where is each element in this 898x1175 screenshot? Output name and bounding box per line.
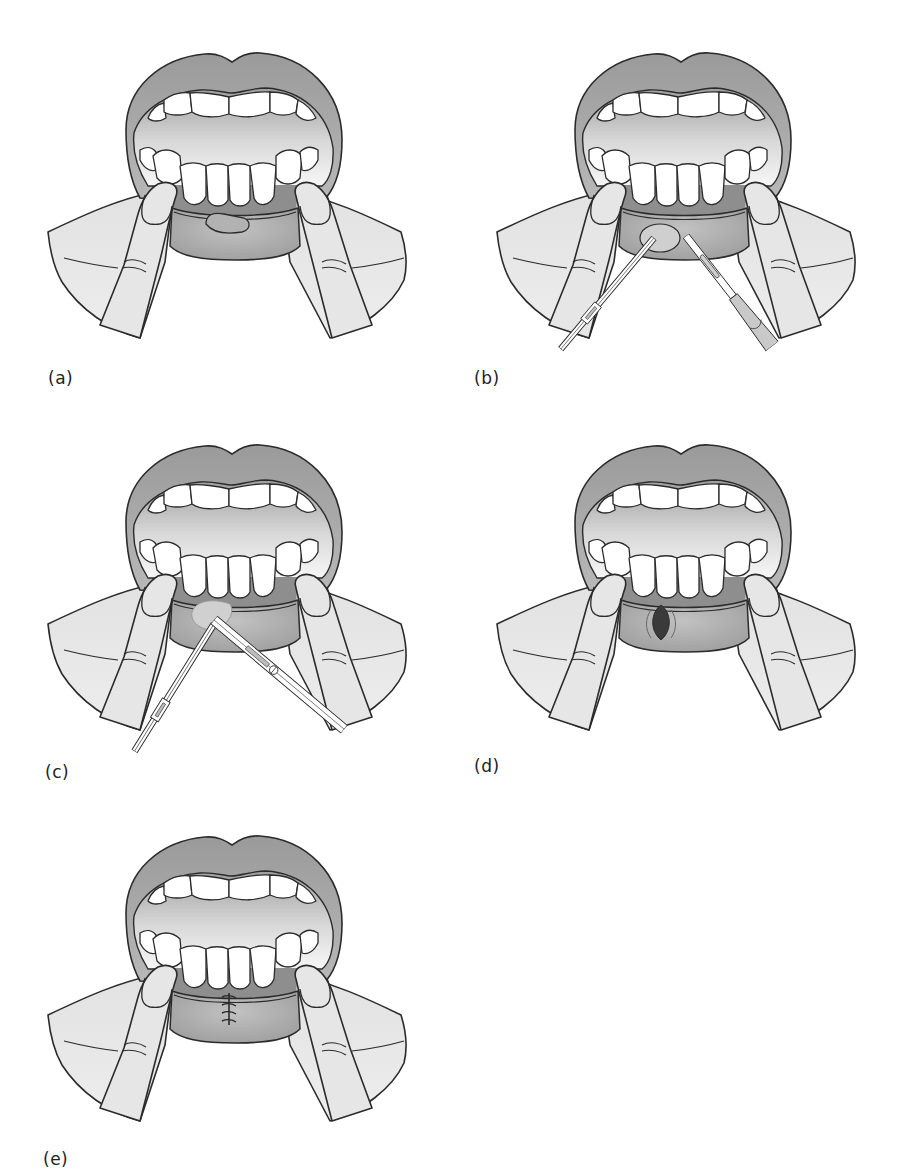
panel-label: (b) [474,370,500,387]
mouth-illustration [449,0,898,392]
mouth-illustration [0,0,449,392]
panel-e: (e) [0,783,449,1175]
mouth-illustration [0,783,449,1175]
panel-d: (d) [449,392,898,784]
panel-label: (e) [43,1151,68,1168]
panel-c: (c) [0,392,449,784]
panel-a: (a) [0,0,449,392]
panel-label: (a) [48,370,73,387]
panel-b: (b) [449,0,898,392]
panel-label: (d) [474,758,500,775]
mouth-illustration [0,392,449,784]
panel-label: (c) [45,764,69,781]
mouth-illustration [449,392,898,784]
